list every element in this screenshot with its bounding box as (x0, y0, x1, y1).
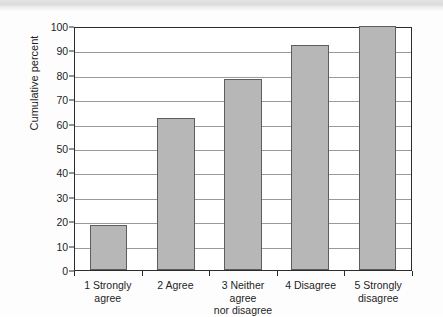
y-axis-tick-label: 0 (62, 265, 68, 277)
bar-slot (209, 28, 276, 270)
x-axis-category-label-line: 1 Strongly agree (84, 279, 131, 304)
x-axis-category-label-line: 2 Agree (157, 279, 193, 291)
bar (90, 225, 128, 270)
x-axis-tick-group (74, 271, 412, 277)
x-axis-label-group: 1 Strongly agree2 Agree3 Neither agreeno… (74, 279, 412, 317)
x-axis-tick-mark (277, 271, 278, 276)
y-axis-tick-label: 50 (57, 143, 68, 155)
scan-artifact-band (0, 0, 443, 8)
bar-group (75, 28, 411, 270)
x-axis-category-label-line: nor disagree (210, 304, 276, 317)
bar-slot (142, 28, 209, 270)
x-axis-tick-mark (344, 271, 345, 276)
bar-slot (277, 28, 344, 270)
y-axis-tick-label: 70 (57, 94, 68, 106)
y-axis-title: Cumulative percent (28, 11, 40, 155)
bar-slot (344, 28, 411, 270)
y-axis-tick-label: 80 (57, 70, 68, 82)
y-axis-tick-label: 20 (57, 216, 68, 228)
bar (359, 26, 397, 270)
y-axis-tick-label: 10 (57, 241, 68, 253)
y-axis-tick-group: 0102030405060708090100 (40, 27, 74, 271)
y-axis-tick-label: 60 (57, 119, 68, 131)
plot-area (74, 27, 412, 271)
x-axis-tick-mark (74, 271, 75, 276)
y-axis-tick-label: 30 (57, 192, 68, 204)
bar (291, 45, 329, 270)
x-axis-category-label-line: 3 Neither agree (222, 279, 265, 304)
y-axis-tick-label: 100 (51, 21, 68, 33)
x-axis-category-label: 3 Neither agreenor disagree (209, 279, 277, 317)
y-axis-tick-label: 90 (57, 45, 68, 57)
x-axis-category-label-line: 4 Disagree (285, 279, 336, 291)
bar (224, 79, 262, 270)
bar (157, 118, 195, 270)
x-axis-tick-mark (142, 271, 143, 276)
x-axis-category-label-line: 5 Strongly (355, 279, 402, 291)
x-axis-tick-mark (209, 271, 210, 276)
x-axis-category-label-line: disagree (345, 292, 411, 305)
x-axis-category-label: 1 Strongly agree (74, 279, 142, 317)
x-axis-category-label: 5 Stronglydisagree (344, 279, 412, 317)
x-axis-category-label: 4 Disagree (277, 279, 345, 317)
cumulative-percent-bar-chart: Cumulative percent 010203040506070809010… (0, 11, 443, 315)
y-axis-tick-label: 40 (57, 167, 68, 179)
bar-slot (75, 28, 142, 270)
x-axis-tick-mark (412, 271, 413, 276)
x-axis-category-label: 2 Agree (142, 279, 210, 317)
